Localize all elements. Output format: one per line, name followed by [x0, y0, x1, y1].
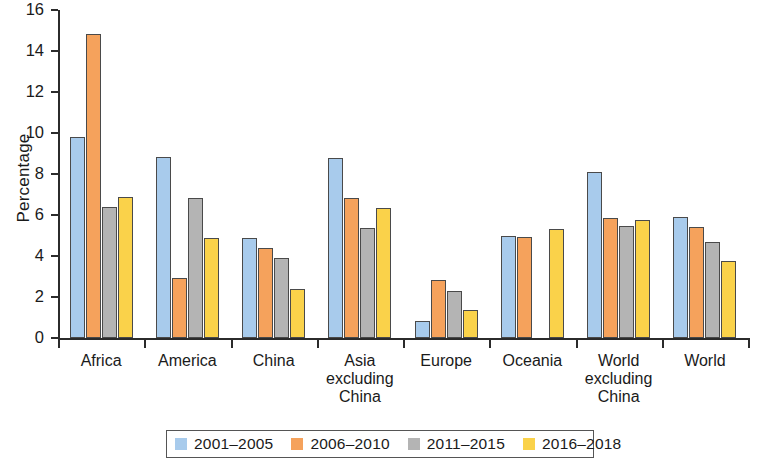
- legend-label: 2016–2018: [542, 435, 621, 453]
- x-tick-mark: [748, 340, 750, 348]
- legend-item[interactable]: 2001–2005: [175, 435, 273, 453]
- bar-group: [156, 10, 219, 338]
- x-tick-mark: [58, 340, 60, 348]
- x-category-label-line: excluding: [305, 370, 415, 388]
- y-tick-mark: [51, 50, 58, 52]
- bar: [328, 158, 343, 338]
- bar: [689, 227, 704, 338]
- bar: [415, 321, 430, 338]
- y-tick-label: 6: [0, 206, 44, 223]
- y-tick-mark: [51, 214, 58, 216]
- bar: [290, 289, 305, 338]
- legend-swatch-icon: [523, 438, 535, 450]
- bar-group: [587, 10, 650, 338]
- bar: [86, 34, 101, 338]
- x-tick-mark: [576, 340, 578, 348]
- x-category-label-line: excluding: [564, 370, 674, 388]
- bar: [619, 226, 634, 338]
- bar: [344, 198, 359, 338]
- bar: [463, 310, 478, 338]
- bar: [517, 237, 532, 338]
- legend-item[interactable]: 2011–2015: [408, 435, 505, 453]
- bar: [721, 261, 736, 338]
- y-tick-label: 16: [0, 1, 44, 18]
- bar: [156, 157, 171, 338]
- x-tick-mark: [144, 340, 146, 348]
- x-tick-mark: [489, 340, 491, 348]
- bar-group: [415, 10, 478, 338]
- y-tick-mark: [51, 255, 58, 257]
- x-category-label-line: China: [305, 388, 415, 406]
- y-tick-mark: [51, 91, 58, 93]
- chart-legend: 2001–20052006–20102011–20152016–2018: [166, 430, 594, 458]
- y-tick-mark: [51, 173, 58, 175]
- bar: [635, 220, 650, 338]
- y-tick-mark: [51, 296, 58, 298]
- x-category-label-line: World: [650, 352, 760, 370]
- y-tick-label: 2: [0, 288, 44, 305]
- bar: [603, 218, 618, 338]
- legend-swatch-icon: [175, 438, 187, 450]
- legend-label: 2006–2010: [310, 435, 389, 453]
- legend-label: 2001–2005: [194, 435, 273, 453]
- legend-item[interactable]: 2006–2010: [291, 435, 389, 453]
- y-tick-label: 12: [0, 83, 44, 100]
- bar: [549, 229, 564, 338]
- x-tick-mark: [403, 340, 405, 348]
- bar: [587, 172, 602, 338]
- bar: [172, 278, 187, 338]
- bar: [501, 236, 516, 339]
- bar-group: [501, 10, 564, 338]
- bar: [242, 238, 257, 338]
- bar-group: [70, 10, 133, 338]
- x-category-label: World: [650, 352, 760, 370]
- y-tick-label: 0: [0, 329, 44, 346]
- legend-swatch-icon: [408, 438, 420, 450]
- bar: [258, 248, 273, 338]
- x-tick-mark: [662, 340, 664, 348]
- bar-group: [328, 10, 391, 338]
- bar: [274, 258, 289, 338]
- y-tick-label: 4: [0, 247, 44, 264]
- bar: [376, 208, 391, 338]
- bar: [705, 242, 720, 338]
- plot-area: [58, 10, 748, 338]
- bar: [447, 291, 462, 338]
- y-tick-mark: [51, 132, 58, 134]
- x-tick-mark: [231, 340, 233, 348]
- bar-group: [242, 10, 305, 338]
- y-tick-label: 10: [0, 124, 44, 141]
- legend-swatch-icon: [291, 438, 303, 450]
- bar: [204, 238, 219, 338]
- bar: [118, 197, 133, 338]
- bar: [360, 228, 375, 338]
- x-category-label-line: China: [564, 388, 674, 406]
- bar: [102, 207, 117, 338]
- bar: [70, 137, 85, 338]
- bar-group: [673, 10, 736, 338]
- legend-item[interactable]: 2016–2018: [523, 435, 621, 453]
- y-tick-mark: [51, 9, 58, 11]
- x-tick-mark: [317, 340, 319, 348]
- bar: [431, 280, 446, 338]
- y-tick-mark: [51, 337, 58, 339]
- y-tick-label: 8: [0, 165, 44, 182]
- bar: [673, 217, 688, 338]
- legend-label: 2011–2015: [427, 435, 505, 453]
- bar-chart: Percentage 0246810121416 AfricaAmericaCh…: [0, 0, 760, 465]
- y-tick-label: 14: [0, 42, 44, 59]
- bar: [188, 198, 203, 338]
